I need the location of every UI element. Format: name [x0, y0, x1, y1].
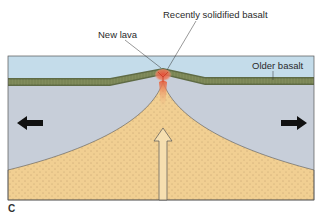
label-recently-solidified-basalt: Recently solidified basalt [163, 10, 268, 20]
panel-label: C [8, 203, 15, 214]
label-new-lava: New lava [98, 30, 137, 40]
seafloor-spreading-diagram [0, 0, 322, 216]
label-older-basalt: Older basalt [252, 61, 303, 71]
